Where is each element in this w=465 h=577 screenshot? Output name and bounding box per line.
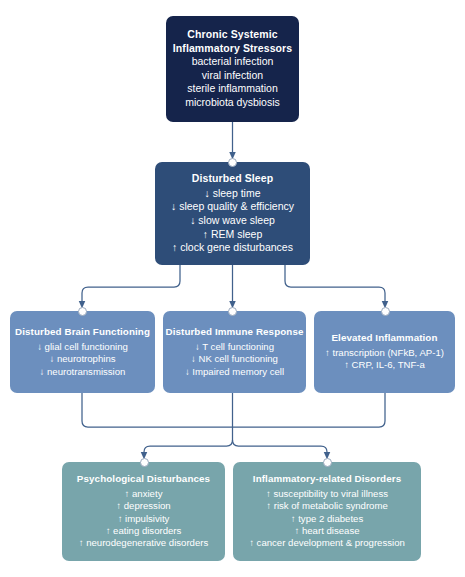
node-item: viral infection — [202, 69, 263, 83]
joint-inflammation — [381, 307, 390, 316]
edge-sleep-to-inflammation — [285, 265, 385, 305]
node-item: ↓ NK cell functioning — [191, 353, 278, 365]
joint-psychological — [140, 458, 149, 467]
joint-sleep — [228, 158, 237, 167]
node-inflammatory-related-disorders[interactable]: Inflammatory-related Disorders ↑ suscept… — [233, 462, 421, 561]
node-item: ↑ neurodegenerative disorders — [79, 537, 209, 549]
node-item: ↓ neurotransmission — [40, 366, 126, 378]
node-item: ↑ risk of metabolic syndrome — [266, 500, 388, 512]
node-item: ↓ T cell functioning — [195, 341, 274, 353]
node-psychological-disturbances[interactable]: Psychological Disturbances ↑ anxiety ↑ d… — [62, 462, 225, 561]
edge-bus-to-inflammatory-disorders — [233, 440, 328, 456]
node-title-line-2: Inflammatory Stressors — [173, 42, 293, 54]
node-title: Disturbed Brain Functioning — [15, 326, 150, 339]
joint-immune — [228, 307, 237, 316]
node-title: Disturbed Sleep — [192, 172, 273, 185]
node-item: ↑ type 2 diabetes — [291, 513, 364, 525]
node-item: ↓ sleep quality & efficiency — [171, 200, 294, 214]
node-item: sterile inflammation — [187, 82, 277, 96]
node-item: ↑ impulsivity — [118, 513, 170, 525]
node-item: ↑ depression — [116, 500, 170, 512]
node-title: Chronic Systemic Inflammatory Stressors — [173, 28, 293, 55]
edge-brain-to-bus — [82, 393, 233, 427]
node-elevated-inflammation[interactable]: Elevated Inflammation ↑ transcription (N… — [314, 311, 455, 393]
node-item: ↓ slow wave sleep — [190, 214, 275, 228]
node-item: ↑ clock gene disturbances — [172, 241, 293, 255]
node-item: ↑ heart disease — [294, 525, 359, 537]
node-title-line-1: Chronic Systemic — [187, 28, 277, 40]
joint-inflammatory-disorders — [323, 458, 332, 467]
node-item: ↓ sleep time — [204, 187, 260, 201]
node-item: ↑ CRP, IL-6, TNF-a — [344, 359, 425, 371]
edge-inflammation-to-bus — [233, 393, 386, 427]
node-item: ↑ anxiety — [125, 488, 163, 500]
edge-bus-to-psychological — [144, 440, 233, 456]
node-chronic-systemic-inflammatory-stressors[interactable]: Chronic Systemic Inflammatory Stressors … — [166, 16, 299, 122]
edge-sleep-to-brain — [82, 265, 180, 305]
node-disturbed-immune-response[interactable]: Disturbed Immune Response ↓ T cell funct… — [163, 311, 306, 393]
node-item: bacterial infection — [192, 55, 274, 69]
node-item: ↑ susceptibility to viral illness — [266, 488, 388, 500]
node-title: Psychological Disturbances — [77, 473, 210, 486]
joint-brain — [78, 307, 87, 316]
node-disturbed-brain-functioning[interactable]: Disturbed Brain Functioning ↓ glial cell… — [10, 311, 155, 393]
node-item: ↑ transcription (NFkB, AP-1) — [325, 347, 444, 359]
node-item: ↓ neurotrophins — [49, 353, 115, 365]
node-item: ↑ REM sleep — [203, 228, 263, 242]
node-item: microbiota dysbiosis — [185, 96, 280, 110]
node-title: Inflammatory-related Disorders — [253, 473, 401, 486]
node-item: ↓ Impaired memory cell — [185, 366, 284, 378]
node-item: ↑ eating disorders — [106, 525, 182, 537]
diagram-canvas: Chronic Systemic Inflammatory Stressors … — [0, 0, 465, 577]
node-title: Disturbed Immune Response — [165, 326, 303, 339]
node-disturbed-sleep[interactable]: Disturbed Sleep ↓ sleep time ↓ sleep qua… — [155, 162, 310, 265]
node-item: ↓ glial cell functioning — [37, 341, 128, 353]
node-title: Elevated Inflammation — [331, 332, 437, 345]
node-item: ↑ cancer development & progression — [249, 537, 405, 549]
